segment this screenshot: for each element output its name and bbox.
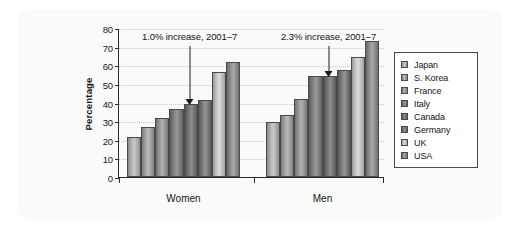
legend-label: S. Korea [414, 73, 448, 83]
legend-item-italy[interactable]: Italy [401, 97, 472, 110]
legend: JapanS. KoreaFranceItalyCanadaGermanyUKU… [394, 52, 478, 168]
legend-item-canada[interactable]: Canada [401, 110, 472, 123]
x-axis-tick [383, 177, 384, 183]
legend-label: UK [414, 138, 426, 148]
bar-women-canada [184, 104, 198, 177]
legend-item-france[interactable]: France [401, 84, 472, 97]
bar-men-canada [323, 76, 337, 177]
annotation-text-2: 2.3% increase, 2001–7 [281, 31, 376, 42]
y-tick-mark [115, 66, 119, 67]
legend-item-japan[interactable]: Japan [401, 58, 472, 71]
legend-swatch-icon [401, 152, 408, 159]
y-tick-label: 0 [108, 173, 113, 184]
arrow-head [325, 71, 333, 77]
bar-women-japan [127, 137, 141, 177]
y-tick-label: 70 [103, 42, 113, 53]
legend-swatch-icon [401, 139, 408, 146]
x-axis-label-men: Men [313, 193, 332, 204]
legend-swatch-icon [401, 74, 408, 81]
y-tick-label: 10 [103, 154, 113, 165]
y-gridline [119, 66, 384, 67]
y-tick-mark [115, 29, 119, 30]
arrow-shaft [190, 46, 191, 104]
y-gridline [119, 29, 384, 30]
legend-swatch-icon [401, 126, 408, 133]
bar-men-japan [266, 122, 280, 177]
y-gridline [119, 48, 384, 49]
bar-men-s-korea [280, 115, 294, 177]
annotation-text-1: 1.0% increase, 2001–7 [142, 31, 237, 42]
legend-label: Italy [414, 99, 430, 109]
y-tick-mark [115, 48, 119, 49]
bar-men-uk [351, 57, 365, 177]
y-tick-mark [115, 104, 119, 105]
y-tick-label: 40 [103, 98, 113, 109]
y-tick-label: 30 [103, 117, 113, 128]
legend-swatch-icon [401, 113, 408, 120]
bar-men-usa [365, 41, 379, 177]
x-axis-tick [254, 177, 255, 183]
annotation-arrow-1 [185, 46, 194, 104]
legend-item-germany[interactable]: Germany [401, 123, 472, 136]
y-tick-label: 20 [103, 135, 113, 146]
legend-item-usa[interactable]: USA [401, 149, 472, 162]
y-tick-mark [115, 85, 119, 86]
y-tick-label: 50 [103, 79, 113, 90]
bar-men-germany [337, 70, 351, 177]
y-tick-mark [115, 122, 119, 123]
bar-women-s-korea [141, 127, 155, 177]
legend-label: France [414, 86, 441, 96]
legend-swatch-icon [401, 61, 408, 68]
bar-chart-figure: Percentage 01020304050607080WomenMen 1.0… [0, 0, 520, 230]
legend-label: Germany [414, 125, 450, 135]
legend-label: Canada [414, 112, 445, 122]
legend-swatch-icon [401, 100, 408, 107]
legend-item-s-korea[interactable]: S. Korea [401, 71, 472, 84]
arrow-head [186, 99, 194, 105]
bar-men-italy [308, 76, 322, 178]
legend-swatch-icon [401, 87, 408, 94]
y-tick-mark [115, 159, 119, 160]
y-tick-label: 60 [103, 61, 113, 72]
bar-women-italy [169, 109, 183, 177]
y-tick-mark [115, 141, 119, 142]
bar-women-usa [226, 62, 240, 177]
legend-label: USA [414, 151, 432, 161]
bar-women-germany [198, 100, 212, 177]
legend-item-uk[interactable]: UK [401, 136, 472, 149]
bar-men-france [294, 99, 308, 177]
bar-women-uk [212, 72, 226, 177]
plot-axes: 01020304050607080WomenMen [118, 29, 384, 178]
legend-label: Japan [414, 60, 438, 70]
y-axis-title: Percentage [83, 77, 94, 130]
y-tick-label: 80 [103, 24, 113, 35]
x-axis-tick [119, 177, 120, 183]
annotation-arrow-2 [324, 46, 333, 76]
x-axis-label-women: Women [166, 193, 200, 204]
bar-women-france [155, 118, 169, 177]
